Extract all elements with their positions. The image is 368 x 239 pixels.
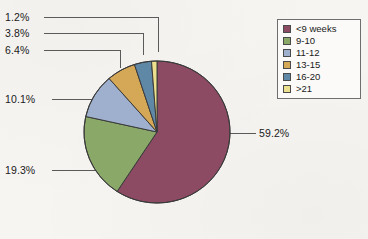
legend-swatch	[283, 85, 291, 93]
legend-label: 11-12	[296, 48, 320, 58]
legend-label: 16-20	[296, 72, 320, 82]
legend-swatch	[283, 49, 291, 57]
legend-item: 16-20	[283, 72, 356, 83]
slice-label-19-3: 19.3%	[5, 164, 35, 176]
legend-swatch	[283, 25, 291, 33]
legend-item: <9 weeks	[283, 24, 356, 35]
slice-label-6-4: 6.4%	[5, 44, 29, 56]
slice-label-3-8: 3.8%	[5, 27, 29, 39]
leader-line-6-4	[44, 50, 120, 68]
legend-swatch	[283, 73, 291, 81]
leader-line-1-2	[44, 17, 158, 52]
pie-slices	[84, 61, 230, 203]
legend-label: >21	[296, 84, 312, 94]
legend-label: 9-10	[296, 36, 315, 46]
leader-line-3-8	[44, 33, 143, 55]
legend-label: 13-15	[296, 60, 320, 70]
slice-label-10-1: 10.1%	[5, 93, 35, 105]
legend-item: 11-12	[283, 48, 356, 59]
chart-legend: <9 weeks9-1011-1213-1516-20>21	[277, 19, 361, 99]
slice-label-1-2: 1.2%	[5, 11, 29, 23]
legend-item: 9-10	[283, 36, 356, 47]
legend-item: >21	[283, 84, 356, 95]
legend-swatch	[283, 61, 291, 69]
slice-label-59-2: 59.2%	[259, 127, 289, 139]
legend-item: 13-15	[283, 60, 356, 71]
pie-chart-figure: 1.2% 3.8% 6.4% 10.1% 19.3% 59.2% <9 week…	[0, 0, 368, 239]
legend-swatch	[283, 37, 291, 45]
legend-label: <9 weeks	[296, 24, 336, 34]
